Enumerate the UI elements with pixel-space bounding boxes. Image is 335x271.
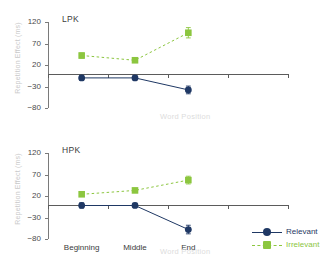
data-point[interactable] — [185, 29, 192, 36]
data-point[interactable] — [132, 75, 139, 82]
data-point[interactable] — [78, 202, 85, 209]
y-tick-label: 20 — [15, 191, 41, 200]
y-tick-label: 70 — [15, 170, 41, 179]
x-category-label: Middle — [105, 243, 165, 252]
data-point[interactable] — [78, 75, 85, 82]
y-tick-label: −80 — [15, 234, 41, 243]
plot-area-lpk: 1207020−30−80 — [48, 22, 248, 108]
data-point[interactable] — [185, 177, 192, 184]
data-point[interactable] — [132, 187, 139, 194]
y-tick-label: −30 — [15, 213, 41, 222]
data-point[interactable] — [132, 202, 139, 209]
data-point[interactable] — [78, 191, 85, 198]
y-tick-label: −80 — [15, 103, 41, 112]
y-tick-label: 120 — [15, 17, 41, 26]
chart-panel-lpk: Repetition Effect (ms) LPK 1207020−30−80… — [0, 0, 335, 133]
legend-label-relevant: Relevant — [286, 227, 318, 236]
data-point[interactable] — [185, 226, 192, 233]
x-category-label: Beginning — [52, 243, 112, 252]
chart-panel-hpk: Repetition Effect (ms) HPK 1207020−30−80… — [0, 133, 335, 271]
x-axis-title-hpk: Word Position — [160, 247, 210, 256]
data-point[interactable] — [132, 57, 139, 64]
series-line-irrelevant — [82, 33, 189, 61]
legend-marker-relevant — [263, 228, 271, 236]
y-tick-label: 70 — [15, 39, 41, 48]
data-point[interactable] — [78, 52, 85, 59]
series-line-relevant — [82, 206, 189, 230]
legend-label-irrelevant: Irrelevant — [286, 240, 319, 249]
legend-marker-irrelevant — [263, 241, 271, 249]
plot-area-hpk: 1207020−30−80BeginningMiddleEnd — [48, 153, 248, 239]
data-point[interactable] — [185, 87, 192, 94]
x-axis-title-lpk: Word Position — [160, 112, 210, 121]
y-tick-label: 120 — [15, 148, 41, 157]
y-tick-label: 20 — [15, 60, 41, 69]
y-tick-label: −30 — [15, 82, 41, 91]
